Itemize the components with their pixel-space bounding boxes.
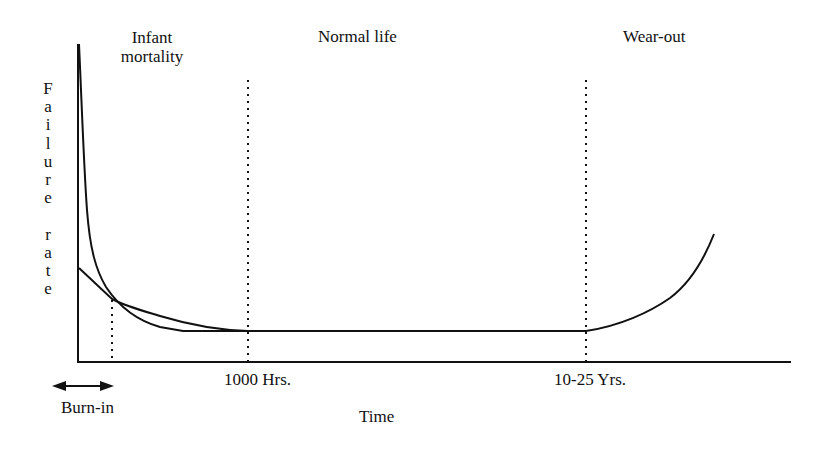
- y-label-letter: a: [38, 244, 58, 262]
- region-label-infant-line1: Infant: [104, 28, 200, 47]
- region-label-infant-mortality: Infant mortality: [104, 28, 200, 66]
- y-label-letter: e: [38, 280, 58, 298]
- normal-wearout-curve: [248, 234, 714, 331]
- y-label-letter: l: [38, 135, 58, 153]
- tick-label-10-25-yrs: 10-25 Yrs.: [554, 370, 626, 389]
- bathtub-diagram: [0, 0, 827, 449]
- gradual-infant-curve: [79, 268, 248, 331]
- y-label-letter: t: [38, 262, 58, 280]
- y-label-letter: e: [38, 189, 58, 207]
- region-label-normal-life: Normal life: [318, 27, 397, 46]
- tick-label-1000-hrs: 1000 Hrs.: [224, 370, 291, 389]
- y-label-space: [38, 207, 58, 225]
- burn-in-label: Burn-in: [61, 398, 114, 417]
- y-label-letter: F: [38, 80, 58, 98]
- steep-infant-curve: [79, 44, 248, 331]
- region-label-wear-out: Wear-out: [623, 27, 685, 46]
- y-label-letter: i: [38, 116, 58, 134]
- region-label-infant-line2: mortality: [104, 47, 200, 66]
- double-headed-arrow-icon: [52, 381, 114, 391]
- y-label-letter: r: [38, 171, 58, 189]
- y-label-letter: u: [38, 153, 58, 171]
- x-axis-label: Time: [359, 407, 394, 426]
- y-label-letter: a: [38, 98, 58, 116]
- y-label-letter: r: [38, 226, 58, 244]
- y-axis-label: F a i l u r e r a t e: [38, 80, 58, 298]
